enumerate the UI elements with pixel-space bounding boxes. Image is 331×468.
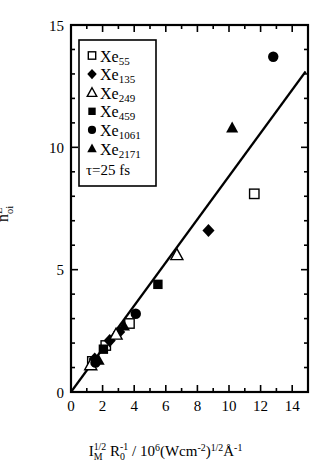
x-tick-label: 2 xyxy=(99,398,107,414)
y-tick-label: 5 xyxy=(57,262,65,278)
legend-note-pulse-duration: τ=25 fs xyxy=(86,162,130,178)
legend-marker-Xe1061 xyxy=(88,126,96,134)
x-tick-label: 14 xyxy=(285,398,301,414)
x-label-ten: 106 xyxy=(140,443,160,459)
scatter-plot: 02468101214051015 Xe55Xe135Xe249Xe459Xe1… xyxy=(0,0,331,468)
x-axis-label: I1/2M R-10 / 106(Wcm-2)1/2Å-1 xyxy=(0,442,331,462)
y-tick-label: 15 xyxy=(49,18,64,34)
chart-figure: 02468101214051015 Xe55Xe135Xe249Xe459Xe1… xyxy=(0,0,331,468)
data-point-Xe459 xyxy=(99,344,108,353)
data-point-Xe1061 xyxy=(268,52,278,62)
x-tick-label: 10 xyxy=(222,398,237,414)
y-tick-label: 10 xyxy=(49,140,64,156)
data-point-Xe1061 xyxy=(131,308,141,318)
x-tick-label: 8 xyxy=(194,398,202,414)
x-label-unit: (Wcm-2)1/2 xyxy=(160,443,223,459)
x-label-r0: R-10 xyxy=(110,443,128,459)
x-tick-label: 12 xyxy=(253,398,268,414)
chart-legend: Xe55Xe135Xe249Xe459Xe1061Xe2171τ=25 fs xyxy=(79,40,156,186)
x-label-angstrom: Å-1 xyxy=(223,443,242,459)
y-label-n: nLoi xyxy=(0,206,11,222)
data-point-Xe2171 xyxy=(226,121,238,132)
x-label-slash: / xyxy=(132,443,136,459)
data-point-Xe135 xyxy=(202,224,214,237)
data-point-Xe55 xyxy=(250,189,259,198)
y-tick-label: 0 xyxy=(57,385,65,401)
data-point-Xe459 xyxy=(153,280,162,289)
y-axis-label: nLoi xyxy=(0,206,15,222)
legend-marker-Xe55 xyxy=(88,52,95,59)
legend-marker-Xe459 xyxy=(88,108,95,115)
x-tick-label: 6 xyxy=(162,398,170,414)
x-tick-label: 0 xyxy=(67,398,75,414)
x-label-imax: I1/2M xyxy=(89,443,107,459)
x-tick-label: 4 xyxy=(130,398,138,414)
